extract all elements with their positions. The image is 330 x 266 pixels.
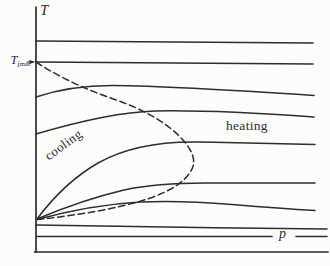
temperature-axis-label: T bbox=[40, 3, 48, 18]
pressure-axis-label: p bbox=[279, 227, 286, 241]
isenthalp-3 bbox=[36, 86, 314, 98]
heating-region-label: heating bbox=[226, 119, 268, 133]
timax-subsubscript: max bbox=[20, 60, 30, 67]
timax-pointer-arrowhead-icon bbox=[30, 60, 36, 64]
inversion-curve-diagram: T Timax cooling heating p bbox=[0, 0, 330, 266]
max-inversion-temperature-label: Timax bbox=[3, 54, 30, 69]
isenthalp-2 bbox=[36, 62, 313, 64]
isenthalp-1 bbox=[36, 41, 313, 43]
isenthalp-7 bbox=[37, 201, 315, 219]
